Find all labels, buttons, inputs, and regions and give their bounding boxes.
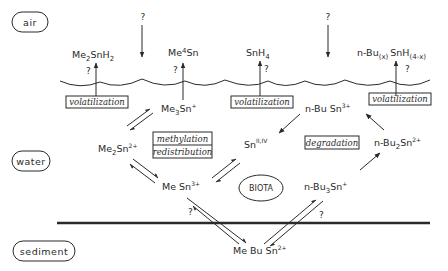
question-mark: ?	[326, 12, 331, 22]
arrow-nbu2sn2-to-nbusn3	[366, 114, 384, 130]
question-mark: ?	[173, 65, 178, 75]
organotin-cycle-diagram: air water sediment ? ? Me2SnH2 Me4Sn SnH…	[0, 0, 448, 271]
volatilization-box-2: volatilization	[231, 96, 293, 108]
methylation-label: methylation	[157, 134, 208, 144]
equilibrium-mesn3-sn	[212, 159, 240, 182]
species-snh4: SnH4	[246, 47, 270, 61]
water-surface-line	[60, 79, 430, 86]
species-nbu3sn: n-Bu3Sn+	[304, 180, 347, 195]
species-nbusn3: n-Bu Sn3+	[305, 102, 351, 114]
zone-water-label: water	[16, 156, 46, 167]
degradation-box: degradation	[305, 136, 359, 149]
svg-text:volatilization: volatilization	[234, 97, 290, 107]
arrow-nbusn3-to-sn	[279, 114, 300, 133]
question-mark: ?	[141, 12, 146, 22]
svg-text:BIOTA: BIOTA	[249, 184, 273, 193]
zone-air-label: air	[23, 17, 37, 28]
arrow-nbu3sn-to-nbu2sn2	[360, 153, 380, 170]
zone-water: water	[12, 151, 50, 171]
species-nbu-x-snh-4-x: n-Bu(x)SnH(4-x)	[357, 47, 426, 61]
redistribution-label: redistribution	[153, 147, 212, 157]
biota-ellipse: BIOTA	[239, 175, 283, 201]
equilibrium-me2sn2-mesn3	[130, 159, 158, 183]
volatilization-box-1: volatilization	[66, 96, 128, 108]
question-mark: ?	[188, 207, 193, 217]
species-nbu2sn2: n-Bu2Sn2+	[374, 136, 421, 151]
zone-sediment: sediment	[13, 241, 75, 261]
zone-air: air	[12, 12, 48, 32]
svg-text:volatilization: volatilization	[69, 97, 125, 107]
methylation-redistribution-box: methylation redistribution	[153, 132, 212, 158]
volatilization-box-3: volatilization	[369, 93, 431, 105]
svg-text:degradation: degradation	[306, 138, 358, 148]
equilibrium-me3sn-me2sn2	[127, 109, 153, 130]
zone-sediment-label: sediment	[20, 246, 68, 257]
species-me2sn2: Me2Sn2+	[98, 142, 137, 157]
question-mark: ?	[319, 210, 324, 220]
species-mesn3: Me Sn3+	[162, 180, 200, 192]
species-mebusn2: Me Bu Sn2+	[233, 244, 287, 256]
question-mark: ?	[264, 64, 269, 74]
question-mark: ?	[405, 64, 410, 74]
question-mark: ?	[86, 66, 91, 76]
species-sn-ii-iv: SnII,IV	[244, 137, 268, 150]
species-me3sn: Me3Sn+	[161, 102, 197, 117]
exchange-mesn3-mebusn2: ?	[187, 198, 246, 244]
species-me2snh2: Me2SnH2	[72, 49, 114, 63]
svg-text:volatilization: volatilization	[372, 94, 428, 104]
species-me4sn: Me4Sn	[168, 47, 199, 58]
